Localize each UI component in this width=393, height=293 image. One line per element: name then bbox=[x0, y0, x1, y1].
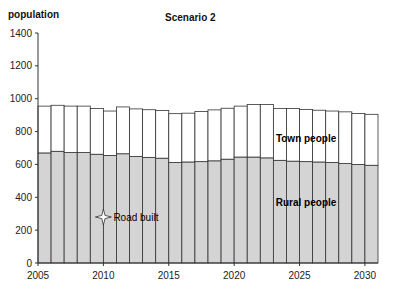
road-built-annotation: Road built bbox=[113, 212, 158, 223]
rural-bar bbox=[313, 162, 326, 263]
y-tick-label: 400 bbox=[15, 192, 32, 203]
town-bar bbox=[169, 114, 182, 163]
rural-bar bbox=[234, 157, 247, 263]
x-tick-label: 2010 bbox=[92, 270, 115, 281]
town-bar bbox=[352, 114, 365, 165]
town-bar bbox=[247, 104, 260, 157]
town-bar bbox=[365, 114, 378, 165]
rural-bar bbox=[326, 162, 339, 263]
rural-bar bbox=[169, 162, 182, 263]
town-bar bbox=[51, 105, 64, 151]
x-tick-label: 2025 bbox=[288, 270, 311, 281]
x-tick-label: 2020 bbox=[223, 270, 246, 281]
y-tick-label: 800 bbox=[15, 126, 32, 137]
town-bar bbox=[260, 104, 273, 157]
rural-bar bbox=[143, 157, 156, 263]
rural-bar bbox=[300, 162, 313, 263]
rural-bar bbox=[221, 159, 234, 263]
town-bar bbox=[221, 108, 234, 159]
rural-bar bbox=[273, 160, 286, 263]
town-bar bbox=[90, 109, 103, 155]
town-bar bbox=[182, 113, 195, 162]
town-bar bbox=[143, 110, 156, 158]
town-bar bbox=[77, 106, 90, 152]
town-bar bbox=[103, 111, 116, 155]
rural-bar bbox=[195, 162, 208, 263]
rural-bar bbox=[77, 153, 90, 263]
rural-bar bbox=[116, 154, 129, 263]
y-tick-label: 1200 bbox=[10, 60, 33, 71]
y-tick-label: 1400 bbox=[10, 28, 33, 39]
rural-bar bbox=[286, 161, 299, 263]
town-bar bbox=[116, 107, 129, 154]
x-tick-label: 2015 bbox=[158, 270, 181, 281]
rural-people-label: Rural people bbox=[276, 197, 337, 208]
rural-bar bbox=[51, 151, 64, 263]
town-bar bbox=[339, 112, 352, 164]
rural-bar bbox=[208, 161, 221, 263]
y-tick-label: 200 bbox=[15, 225, 32, 236]
rural-bar bbox=[182, 162, 195, 263]
x-tick-label: 2030 bbox=[354, 270, 377, 281]
rural-bar bbox=[90, 154, 103, 263]
town-people-label: Town people bbox=[276, 133, 337, 144]
rural-bar bbox=[339, 164, 352, 263]
rural-bar bbox=[103, 155, 116, 263]
rural-bar bbox=[130, 157, 143, 263]
y-tick-label: 0 bbox=[26, 258, 32, 269]
stacked-bar-chart: 0200400600800100012001400200520102015202… bbox=[0, 0, 393, 293]
y-tick-label: 600 bbox=[15, 159, 32, 170]
town-bar bbox=[64, 106, 77, 152]
rural-bar bbox=[260, 158, 273, 263]
rural-bar bbox=[38, 153, 51, 263]
town-bar bbox=[38, 106, 51, 153]
rural-bar bbox=[352, 164, 365, 263]
town-bar bbox=[208, 110, 221, 161]
x-tick-label: 2005 bbox=[27, 270, 50, 281]
town-bar bbox=[195, 112, 208, 162]
town-bar bbox=[234, 106, 247, 157]
rural-bar bbox=[64, 153, 77, 263]
rural-bar bbox=[365, 165, 378, 263]
town-bar bbox=[130, 109, 143, 157]
town-bar bbox=[156, 111, 169, 159]
rural-bar bbox=[247, 157, 260, 263]
y-tick-label: 1000 bbox=[10, 93, 33, 104]
